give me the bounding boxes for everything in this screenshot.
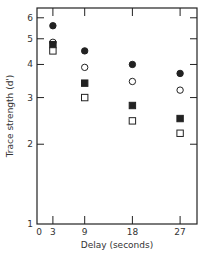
y-tick-label: 4 xyxy=(27,59,33,69)
filled-square-marker xyxy=(50,41,56,47)
filled-circle-marker xyxy=(177,70,183,76)
open-circle-marker xyxy=(82,64,88,70)
x-axis-label: Delay (seconds) xyxy=(81,240,153,250)
y-tick-label: 6 xyxy=(27,13,33,23)
open-square-marker xyxy=(82,94,88,100)
x-axis-ticks: 0391827 xyxy=(36,8,186,237)
plot-frame xyxy=(37,8,197,224)
filled-square-marker xyxy=(177,115,183,121)
x-tick-label: 9 xyxy=(82,227,88,237)
open-circle-marker xyxy=(129,78,135,84)
y-tick-label: 1 xyxy=(27,219,33,229)
axes-box xyxy=(37,8,197,224)
x-tick-label: 27 xyxy=(174,227,185,237)
filled-circle-marker xyxy=(50,23,56,29)
y-tick-label: 2 xyxy=(27,139,33,149)
open-square-marker xyxy=(177,130,183,136)
y-axis-label: Trace strength (d') xyxy=(5,75,15,159)
filled-square-marker xyxy=(129,102,135,108)
open-square-marker xyxy=(50,48,56,54)
open-circle-marker xyxy=(177,87,183,93)
y-tick-label: 3 xyxy=(27,93,33,103)
data-points xyxy=(50,23,184,137)
x-tick-label: 18 xyxy=(127,227,139,237)
trace-strength-chart: 0391827 123456 Delay (seconds) Trace str… xyxy=(0,0,206,254)
filled-square-marker xyxy=(82,80,88,86)
x-tick-label: 0 xyxy=(36,227,42,237)
y-tick-label: 5 xyxy=(27,34,33,44)
x-tick-label: 3 xyxy=(50,227,56,237)
open-square-marker xyxy=(129,118,135,124)
filled-circle-marker xyxy=(82,48,88,54)
filled-circle-marker xyxy=(129,61,135,67)
